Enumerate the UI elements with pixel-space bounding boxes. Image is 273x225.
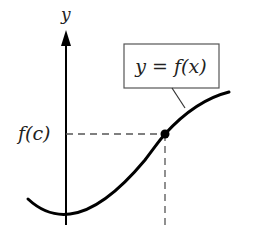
function-graph: y f(c) y = f(x) [0,0,273,225]
fc-label: f(c) [16,122,51,144]
function-curve [28,92,229,214]
y-axis-label: y [60,4,71,24]
function-label: y = f(x) [134,55,206,77]
point-c [161,130,170,139]
y-axis-arrow-icon [61,30,71,46]
label-leader-line [172,88,185,108]
